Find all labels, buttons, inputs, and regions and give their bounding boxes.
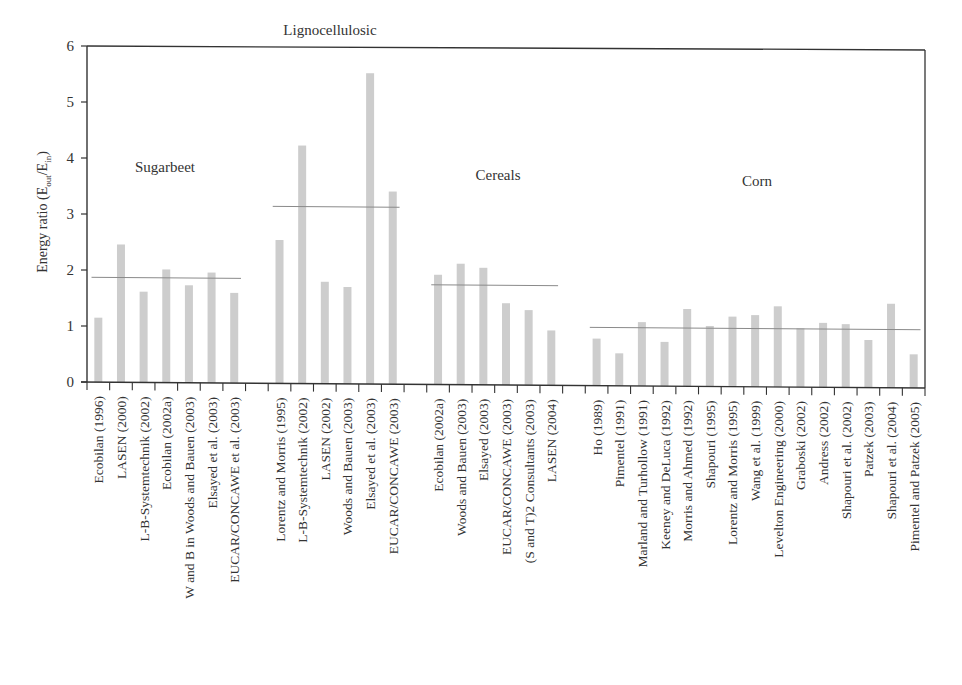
- x-tick-label: Levelton Engineering (2000): [771, 401, 786, 558]
- bar: [819, 323, 827, 387]
- x-tick-label: LASEN (2004): [544, 399, 559, 482]
- bar: [796, 328, 804, 387]
- energy-ratio-bar-chart: 0123456 Ecobilan (1996)LASEN (2000)L-B-S…: [0, 0, 962, 685]
- x-tick-label: EUCAR/CONCAWE (2003): [386, 398, 401, 554]
- x-tick-label: EUCAR/CONCAWE et al. (2003): [227, 397, 242, 583]
- x-tick-label: Lorentz and Morris (1995): [725, 401, 740, 545]
- bar: [298, 146, 306, 384]
- bar: [366, 73, 374, 384]
- x-tick-label: LASEN (2002): [318, 398, 333, 481]
- bar: [547, 330, 555, 385]
- bar: [94, 318, 102, 382]
- bar: [910, 354, 918, 388]
- x-tick-label: Pimentel (1991): [612, 400, 627, 487]
- y-axis: 0123456: [67, 38, 88, 390]
- x-tick-label: Woods and Bauen (2003): [454, 399, 469, 536]
- bar: [276, 240, 284, 383]
- x-tick-label: Wang et al. (1999): [748, 401, 763, 501]
- bars: [94, 73, 917, 388]
- x-tick-label: Morris and Ahmed (1992): [680, 400, 695, 541]
- top-border: [87, 46, 925, 50]
- bar: [185, 285, 193, 382]
- group-label-sugarbeet: Sugarbeet: [135, 159, 196, 175]
- bar: [728, 317, 736, 387]
- x-tick-label: Shapouri et al. (2002): [839, 401, 854, 519]
- bar: [887, 304, 895, 388]
- x-tick-label: Ecobilan (2002a): [431, 399, 446, 492]
- bar: [162, 269, 170, 382]
- x-tick-label: EUCAR/CONCAWE (2003): [499, 399, 514, 555]
- bar: [457, 264, 465, 385]
- x-tick-label: Patzek (2003): [861, 402, 876, 477]
- bar: [661, 342, 669, 386]
- y-tick-label: 5: [67, 94, 75, 110]
- bar: [842, 324, 850, 387]
- bar: [434, 275, 442, 385]
- x-tick-label: Ho (1989): [590, 400, 605, 456]
- bar: [343, 287, 351, 384]
- bar: [389, 192, 397, 385]
- x-axis: Ecobilan (1996)LASEN (2000)L-B-Systemtec…: [81, 382, 925, 599]
- bar: [208, 273, 216, 383]
- bar: [615, 353, 623, 385]
- x-tick-label: Marland and Turhollow (1991): [635, 400, 650, 568]
- y-tick-label: 3: [67, 206, 75, 222]
- bar: [593, 339, 601, 386]
- bar: [638, 322, 646, 386]
- bar: [140, 292, 148, 383]
- x-tick-label: Andress (2002): [816, 401, 831, 485]
- y-tick-label: 0: [67, 374, 75, 390]
- x-tick-label: W and B in Woods and Bauen (2003): [182, 397, 197, 599]
- bar: [864, 340, 872, 388]
- x-tick-label: Lorentz and Morris (1995): [273, 397, 288, 541]
- bar: [321, 282, 329, 384]
- bar: [751, 315, 759, 387]
- bar: [117, 244, 125, 382]
- x-tick-label: Elsayed et al. (2003): [205, 397, 220, 509]
- x-tick-label: Shapouri et al. (2004): [884, 402, 899, 520]
- mean-line: [431, 285, 558, 286]
- y-axis-title: Energy ratio (Eout/Ein): [35, 151, 53, 273]
- x-tick-label: Ecobilan (2002a): [159, 397, 174, 490]
- y-tick-label: 4: [67, 150, 75, 166]
- x-tick-label: L-B-Systemtechnik (2002): [295, 398, 310, 543]
- x-tick-label: LASEN (2000): [114, 396, 129, 479]
- x-tick-label: L-B-Systemtechnik (2002): [137, 396, 152, 541]
- x-tick-label: Elsayed (2003): [476, 399, 491, 481]
- group-label-cereals: Cereals: [476, 167, 521, 183]
- x-tick-label: Elsayed et al. (2003): [363, 398, 378, 510]
- x-tick-label: (S and T)2 Consultants (2003): [522, 399, 537, 563]
- x-tick-label: Woods and Bauen (2003): [340, 398, 355, 535]
- bar: [683, 309, 691, 386]
- group-label-lignocellulosic: Lignocellulosic: [283, 22, 377, 38]
- x-tick-label: Keeney and DeLuca (1992): [658, 400, 673, 550]
- group-label-corn: Corn: [742, 173, 773, 189]
- y-tick-label: 1: [67, 318, 75, 334]
- y-tick-label: 6: [67, 38, 75, 54]
- bar: [774, 306, 782, 387]
- x-tick-label: Ecobilan (1996): [91, 396, 106, 483]
- x-tick-label: Pimentel and Patzek (2005): [907, 402, 922, 552]
- mean-line: [273, 206, 400, 207]
- bar: [706, 326, 714, 386]
- bar: [502, 303, 510, 385]
- mean-line: [92, 277, 241, 278]
- bar: [525, 310, 533, 385]
- y-tick-label: 2: [67, 262, 75, 278]
- x-tick-label: Shapouri (1995): [703, 400, 718, 488]
- x-tick-label: Graboski (2002): [793, 401, 808, 490]
- bar: [230, 293, 238, 383]
